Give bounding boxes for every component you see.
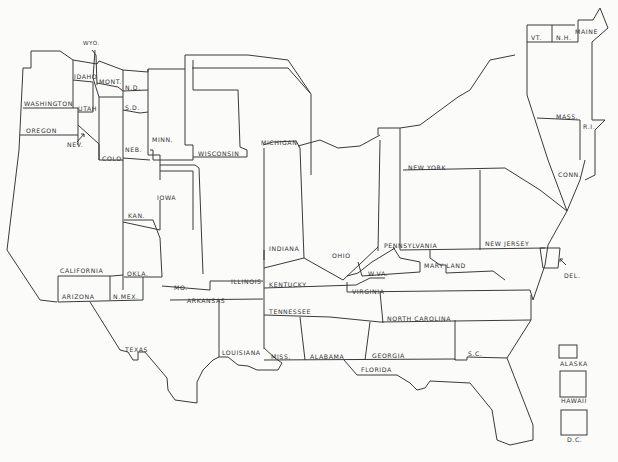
label-mo: MO. xyxy=(174,284,188,291)
label-neb: NEB. xyxy=(125,146,142,153)
label-arizona: ARIZONA xyxy=(62,293,95,300)
west-coast-outline xyxy=(23,51,311,175)
label-colo: COLO. xyxy=(102,155,124,162)
label-mont: MONT. xyxy=(99,78,122,85)
hawaii-inset-box xyxy=(560,371,586,397)
label-mass: MASS. xyxy=(556,113,578,120)
label-louisiana: LOUISIANA xyxy=(222,349,261,356)
label-north-carolina: NORTH CAROLINA xyxy=(387,315,451,322)
label-alabama: ALABAMA xyxy=(310,353,344,360)
label-sc: S.C. xyxy=(468,350,483,357)
label-kan: KAN. xyxy=(128,212,145,219)
label-miss: MISS. xyxy=(271,353,291,360)
label-new-jersey: NEW JERSEY xyxy=(485,240,529,248)
label-maryland: MARY LAND xyxy=(424,262,466,269)
label-maine: MAINE xyxy=(575,28,598,35)
label-florida: FLORIDA xyxy=(361,366,392,373)
dc-inset-box xyxy=(561,410,587,435)
label-pennsylvania: PENNSYLVANIA xyxy=(384,242,437,249)
label-wva: W.VA. xyxy=(368,270,388,277)
label-virginia: VIRGINIA xyxy=(352,288,385,295)
label-utah: UTAH xyxy=(78,105,97,112)
label-nh: N.H. xyxy=(556,34,572,41)
label-ohio: OHIO xyxy=(332,252,351,259)
label-indiana: INDIANA xyxy=(269,245,300,252)
state-labels: WYO. IDAHO MONT. N.D. S.D. WASHINGTON UT… xyxy=(24,28,598,443)
label-nd: N.D. xyxy=(125,84,141,91)
label-iowa: IOWA xyxy=(157,194,176,201)
us-cartogram-map: WYO. IDAHO MONT. N.D. S.D. WASHINGTON UT… xyxy=(0,0,618,462)
label-vt: VT. xyxy=(531,34,542,41)
label-tennessee: TENNESSEE xyxy=(268,308,311,315)
label-minn: MINN. xyxy=(152,136,173,143)
label-new-york: NEW YORK xyxy=(408,164,446,171)
label-kentucky: KENTUCKY xyxy=(269,281,307,288)
label-nev: NEV. xyxy=(67,141,83,148)
label-conn: CONN. xyxy=(558,171,581,178)
label-okla: OKLA. xyxy=(127,270,149,277)
label-ri: R.I. xyxy=(583,123,595,130)
label-alaska: ALASKA xyxy=(560,360,588,367)
label-del: DEL. xyxy=(564,272,581,279)
label-texas: TEXAS xyxy=(124,346,148,353)
label-illinois: ILLINOIS xyxy=(231,278,262,285)
del-arrow-icon xyxy=(560,259,566,265)
label-california: CALIFORNIA xyxy=(60,267,103,274)
label-sd: S.D. xyxy=(125,104,140,111)
label-michigan: MICHIGAN xyxy=(261,139,297,146)
label-idaho: IDAHO xyxy=(74,73,97,80)
label-wyo: WYO. xyxy=(83,40,100,46)
insets xyxy=(559,345,587,435)
label-arkansas: ARKANSAS xyxy=(187,297,225,304)
label-dc: D.C. xyxy=(567,436,582,443)
label-oregon: OREGON xyxy=(26,127,57,134)
pointer-arrows xyxy=(77,50,566,265)
label-wisconsin: WISCONSIN xyxy=(198,150,239,157)
label-georgia: GEORGIA xyxy=(372,352,405,359)
label-hawaii: HAWAII xyxy=(561,397,587,404)
label-washington: WASHINGTON xyxy=(24,100,73,107)
label-nmex: N.MEX. xyxy=(113,293,139,300)
alaska-inset-box xyxy=(559,345,577,358)
